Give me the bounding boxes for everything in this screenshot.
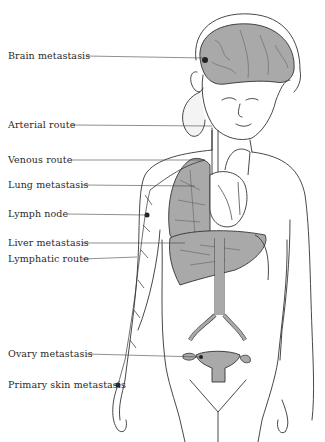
label-arterial-route: Arterial route [8, 119, 75, 130]
label-brain-metastasis: Brain metastasis [8, 50, 90, 61]
face-outline [202, 75, 290, 140]
label-lung-metastasis: Lung metastasis [8, 179, 88, 190]
eye-right [246, 99, 258, 101]
label-lymphatic-route: Lymphatic route [8, 253, 89, 264]
metastasis-diagram: Brain metastasis Arterial route Venous r… [0, 0, 325, 442]
nose [238, 104, 242, 117]
hand-right [277, 400, 287, 433]
label-lymph-node: Lymph node [8, 208, 68, 219]
label-venous-route: Venous route [8, 154, 72, 165]
ponytail [183, 92, 205, 136]
neck-right [250, 140, 252, 152]
lung [169, 158, 210, 241]
aorta [212, 130, 250, 175]
label-liver-metastasis: Liver metastasis [8, 237, 89, 248]
ear [191, 72, 203, 92]
heart [210, 172, 247, 227]
label-primary-skin-metastasis: Primary skin metastasis [8, 379, 126, 390]
label-ovary-metastasis: Ovary metastasis [8, 348, 93, 359]
torso-right [252, 152, 314, 420]
pelvis-v [190, 380, 246, 412]
body-illustration [0, 0, 325, 442]
mouth [236, 124, 251, 126]
eye-left [222, 98, 236, 100]
waist-right [258, 240, 287, 442]
ovary-right [240, 355, 250, 363]
